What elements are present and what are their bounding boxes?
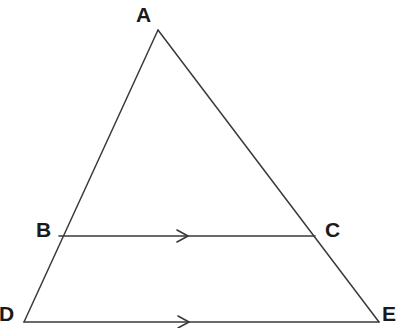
vertex-label-b: B	[36, 219, 51, 240]
side-AD	[24, 30, 158, 322]
vertex-label-e: E	[382, 303, 396, 324]
geometry-figure: A B C D E	[0, 0, 397, 328]
side-AE	[158, 30, 379, 322]
vertex-label-d: D	[0, 303, 14, 324]
vertex-label-a: A	[136, 4, 151, 25]
geometry-canvas	[0, 0, 397, 328]
vertex-label-c: C	[325, 219, 340, 240]
